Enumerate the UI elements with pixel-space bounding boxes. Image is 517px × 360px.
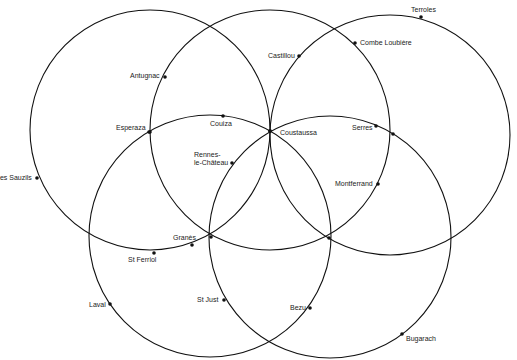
place-label: Castillou xyxy=(268,52,295,60)
place-label: Couiza xyxy=(210,120,232,128)
junction-dot xyxy=(327,236,331,240)
place-dot xyxy=(419,15,423,19)
place-dot xyxy=(163,75,167,79)
place-dot xyxy=(108,302,112,306)
place-label: Coustaussa xyxy=(280,129,317,137)
place-label: Montferrand xyxy=(335,180,373,188)
place-label: Terroles xyxy=(411,6,436,14)
place-dot xyxy=(222,298,226,302)
junction-dot xyxy=(391,132,395,136)
place-dot xyxy=(35,176,39,180)
place-dot xyxy=(152,251,156,255)
place-label: St Just xyxy=(197,296,218,304)
place-label: Serres xyxy=(352,124,373,132)
place-label: Les Sauzils xyxy=(0,174,32,182)
place-label: St Ferriol xyxy=(128,256,156,264)
place-dot xyxy=(400,332,404,336)
place-dot xyxy=(308,306,312,310)
place-label: Antugnac xyxy=(130,72,160,80)
place-label: Combe Loubière xyxy=(360,39,412,47)
place-label: Laval xyxy=(89,301,106,309)
junction-dot xyxy=(209,235,213,239)
place-dot xyxy=(230,161,234,165)
place-dot xyxy=(374,124,378,128)
place-dot xyxy=(190,243,194,247)
place-dot xyxy=(221,114,225,118)
place-dot xyxy=(353,41,357,45)
place-label: Rennes-le-Château xyxy=(194,151,228,167)
place-label: Bezu xyxy=(290,304,306,312)
place-label: Bugarach xyxy=(406,335,436,343)
place-label: Esperaza xyxy=(116,124,146,132)
place-dot xyxy=(297,54,301,58)
place-dot xyxy=(268,129,272,133)
circle-map xyxy=(0,0,517,360)
place-dot xyxy=(376,182,380,186)
place-label: Granès xyxy=(173,234,196,242)
place-dot xyxy=(147,130,151,134)
